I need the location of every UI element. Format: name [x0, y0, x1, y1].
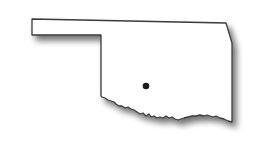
state-map: [0, 0, 256, 143]
oklahoma-outline: [32, 19, 232, 122]
location-marker: [143, 83, 150, 90]
